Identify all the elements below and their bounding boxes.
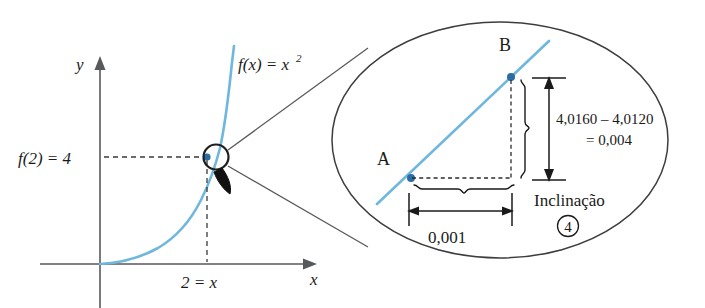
coordinate-graph: f(2) = 4 2 = x y x f(x) = x 2 [18,46,318,308]
point-a-label: A [377,149,390,169]
rise-dimension: 4,0160 – 4,0120 = 0,004 [532,76,654,182]
point-b-label: B [499,35,511,55]
x-axis [40,259,317,270]
parabola-curve [100,46,234,264]
slope-value: 4 [564,219,572,235]
rise-label-line1: 4,0160 – 4,0120 [556,111,654,127]
y-axis [95,56,106,308]
figure-container: f(2) = 4 2 = x y x f(x) = x 2 [0,0,705,308]
inset-ellipse-view: A B 0,001 [332,22,668,258]
secant-line [377,41,549,204]
slope-label: Inclinação [534,191,605,210]
rise-label-line2: = 0,004 [586,132,632,148]
function-label: f(x) = x 2 [238,52,302,74]
y-axis-arrowhead [95,56,106,70]
math-figure: f(2) = 4 2 = x y x f(x) = x 2 [0,0,705,308]
rise-brace [521,80,529,178]
x-axis-label: x [309,270,318,289]
x-value-label: 2 = x [181,273,217,292]
function-label-exponent: 2 [296,52,302,64]
magnifier-cone-lines [228,48,368,247]
slope-annotation: Inclinação 4 [534,191,605,237]
run-brace [414,185,514,193]
pointer-arrow-icon [214,168,231,194]
run-label: 0,001 [428,228,466,247]
x-axis-arrowhead [303,259,317,270]
run-dimension: 0,001 [407,193,514,247]
y-axis-label: y [74,55,84,74]
point-b-marker [507,73,515,81]
function-label-text: f(x) = x [238,55,290,74]
y-value-label: f(2) = 4 [18,149,72,168]
